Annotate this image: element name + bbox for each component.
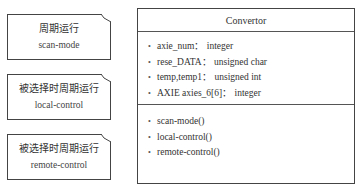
note-remote-control: 被选择时周期运行 remote-control — [7, 134, 111, 180]
note-title: 被选择时周期运行 — [19, 142, 99, 156]
bullet-icon: • — [148, 145, 157, 161]
attribute-row: •temp,temp1： unsigned int — [148, 70, 354, 86]
note-scan-mode: 周期运行 scan-mode — [7, 14, 111, 60]
attribute-row: •axie_num： integer — [148, 39, 354, 55]
note-title: 周期运行 — [39, 22, 79, 36]
class-attributes: •axie_num： integer •rese_DATA： unsigned … — [138, 32, 354, 105]
folded-corner-icon — [101, 14, 111, 22]
method-row: •remote-control() — [148, 145, 354, 161]
note-subtitle: remote-control — [31, 159, 87, 172]
folded-corner-icon — [101, 74, 111, 82]
attribute-row: •rese_DATA： unsigned char — [148, 55, 354, 71]
class-methods: •scan-mode() •local-control() •remote-co… — [138, 105, 354, 161]
class-name: Convertor — [138, 9, 354, 32]
note-subtitle: scan-mode — [38, 39, 79, 52]
bullet-icon: • — [148, 39, 157, 55]
note-title: 被选择时周期运行 — [19, 82, 99, 96]
folded-corner-icon — [101, 134, 111, 142]
bullet-icon: • — [148, 55, 157, 71]
method-row: •scan-mode() — [148, 114, 354, 130]
attribute-row: •AXIE axies_6[6]： integer — [148, 86, 354, 102]
class-convertor: Convertor •axie_num： integer •rese_DATA：… — [137, 8, 355, 184]
bullet-icon: • — [148, 130, 157, 146]
bullet-icon: • — [148, 70, 157, 86]
method-row: •local-control() — [148, 130, 354, 146]
bullet-icon: • — [148, 86, 157, 102]
bullet-icon: • — [148, 114, 157, 130]
note-subtitle: local-control — [35, 99, 84, 112]
note-local-control: 被选择时周期运行 local-control — [7, 74, 111, 120]
